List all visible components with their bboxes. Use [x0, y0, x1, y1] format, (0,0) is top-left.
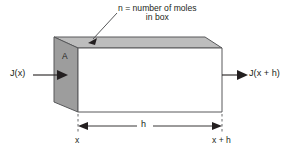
flux-in-label: J(x) — [10, 69, 25, 79]
flux-out-label: J(x + h) — [249, 69, 280, 79]
thickness-label-h: h — [141, 120, 146, 129]
dimension-arrowhead-left — [78, 122, 88, 130]
box-top-face — [54, 37, 222, 48]
area-label-A: A — [62, 52, 68, 61]
moles-annotation-line-2: in box — [118, 13, 197, 22]
moles-annotation: n = number of moles in box — [118, 4, 197, 22]
left-position-label-x: x — [75, 136, 79, 145]
dimension-arrowhead-right — [212, 122, 222, 130]
box-front-face — [78, 48, 222, 112]
right-position-label-x-plus-h: x + h — [212, 136, 231, 145]
flux-out-arrowhead — [237, 70, 248, 80]
diagram-canvas: n = number of moles in box A J(x) J(x + … — [0, 0, 289, 159]
box-flux-diagram-graphics — [0, 0, 289, 159]
moles-leader-line — [93, 13, 117, 39]
